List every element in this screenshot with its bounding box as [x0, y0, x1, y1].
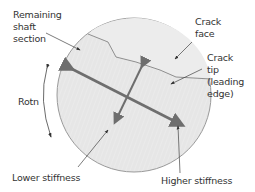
remaining-shaft-label-line2: shaft — [13, 21, 62, 33]
crack-tip-label-line2: tip — [207, 64, 244, 76]
crack-tip-label-line3: (leading — [207, 76, 244, 88]
remaining-shaft-label: Remaining shaft section — [13, 9, 62, 45]
crack-face-label: Crack face — [195, 16, 221, 40]
lower-stiffness-label: Lower stiffness — [12, 172, 80, 184]
rotation-label: Rotn — [18, 96, 39, 108]
higher-stiffness-label: Higher stiffness — [161, 175, 232, 187]
crack-tip-label-line1: Crack — [207, 52, 244, 64]
crack-tip-label: Crack tip (leading edge) — [207, 52, 244, 100]
rotation-arrow — [43, 68, 51, 137]
remaining-shaft-label-line3: section — [13, 33, 62, 45]
crack-tip-label-line4: edge) — [207, 88, 244, 100]
crack-face-label-line2: face — [195, 28, 221, 40]
crack-face-label-line1: Crack — [195, 16, 221, 28]
remaining-shaft-label-line1: Remaining — [13, 9, 62, 21]
